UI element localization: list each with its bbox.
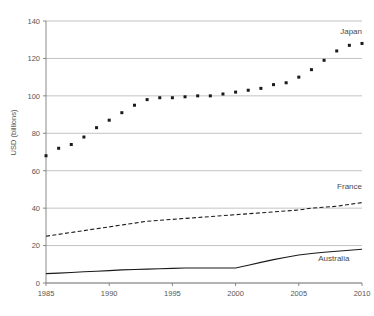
data-point <box>171 96 174 99</box>
data-point <box>95 126 98 129</box>
data-point <box>297 76 300 79</box>
x-tick-label-1990: 1990 <box>101 289 118 298</box>
series-label-australia: Australia <box>318 254 350 263</box>
data-point <box>108 119 111 122</box>
chart-container: USD (billions) 020406080100120140 198519… <box>0 0 374 316</box>
series-label-france: France <box>337 182 362 191</box>
data-point <box>361 42 364 45</box>
data-point <box>70 143 73 146</box>
gridlines-group <box>46 21 362 283</box>
y-tick-label-60: 60 <box>32 167 40 176</box>
y-tick-label-20: 20 <box>32 241 40 250</box>
data-point <box>196 94 199 97</box>
series-japan <box>45 42 364 157</box>
data-point <box>272 83 275 86</box>
data-point <box>335 49 338 52</box>
data-series-group <box>45 42 364 274</box>
data-point <box>310 68 313 71</box>
x-tick-label-1995: 1995 <box>164 289 181 298</box>
x-axis <box>46 283 362 286</box>
data-point <box>209 94 212 97</box>
series-labels-group: JapanFranceAustralia <box>318 27 362 262</box>
y-tick-labels: 020406080100120140 <box>27 17 40 288</box>
data-point <box>259 87 262 90</box>
y-tick-label-140: 140 <box>27 17 40 26</box>
data-point <box>247 89 250 92</box>
data-point <box>234 91 237 94</box>
data-point <box>82 136 85 139</box>
series-label-japan: Japan <box>340 27 362 36</box>
data-point <box>221 92 224 95</box>
data-point <box>45 154 48 157</box>
x-tick-labels: 198519901995200020052010 <box>38 289 371 298</box>
y-tick-label-80: 80 <box>32 129 40 138</box>
data-point <box>133 104 136 107</box>
data-point <box>348 44 351 47</box>
y-tick-label-0: 0 <box>36 279 40 288</box>
series-australia <box>46 249 362 273</box>
data-point <box>57 147 60 150</box>
data-point <box>323 59 326 62</box>
y-axis <box>43 21 46 283</box>
x-tick-label-2000: 2000 <box>227 289 244 298</box>
y-tick-label-100: 100 <box>27 92 40 101</box>
y-tick-label-120: 120 <box>27 54 40 63</box>
data-point <box>285 81 288 84</box>
y-tick-label-40: 40 <box>32 204 40 213</box>
data-point <box>184 95 187 98</box>
x-tick-label-2010: 2010 <box>354 289 371 298</box>
data-point <box>158 96 161 99</box>
data-point <box>146 98 149 101</box>
x-tick-label-2005: 2005 <box>290 289 307 298</box>
series-france <box>46 203 362 237</box>
x-tick-label-1985: 1985 <box>38 289 55 298</box>
chart-plot-area: 020406080100120140 198519901995200020052… <box>0 0 374 316</box>
data-point <box>120 111 123 114</box>
